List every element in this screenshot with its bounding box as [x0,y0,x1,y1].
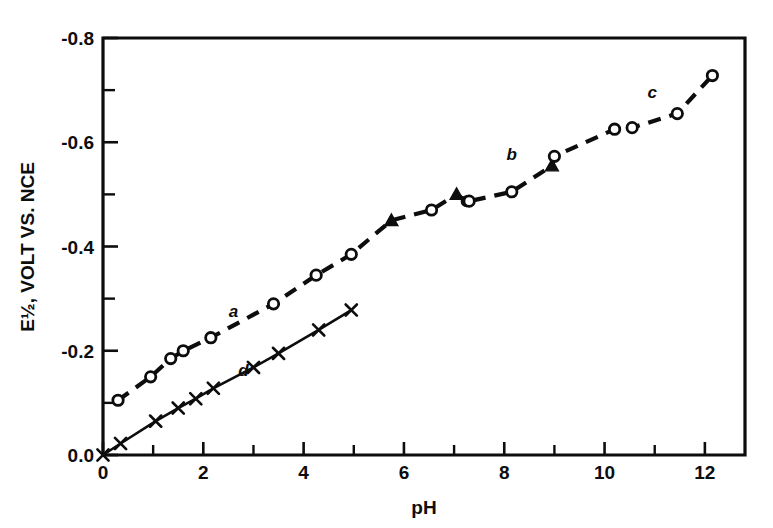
data-point-c [627,122,637,132]
x-axis-tick-labels: 024681012 [98,462,716,483]
x-tick-label: 2 [198,462,209,483]
x-tick-label: 6 [399,462,410,483]
data-point-d [248,362,259,373]
series-inline-labels: abcd [229,83,658,380]
x-tick-label: 4 [298,462,309,483]
y-axis-tick-labels: 0.0-0.2-0.4-0.6-0.8 [61,28,94,466]
x-tick-label: 0 [98,462,109,483]
data-point-a [113,395,123,405]
data-point-a [178,346,188,356]
data-point-b [507,187,517,197]
data-point-d [313,324,324,335]
ph-vs-halfwave-potential-chart: 024681012 0.0-0.2-0.4-0.6-0.8 abcd pH E½… [0,0,773,528]
data-point-b [450,188,463,200]
y-tick-label: -0.6 [61,132,94,153]
x-axis-major-ticks [103,442,705,455]
data-point-b [549,151,559,161]
data-point-a [145,372,155,382]
x-axis-title: pH [411,497,436,518]
y-axis-major-ticks [103,38,118,455]
data-point-c [707,70,717,80]
data-point-d [346,304,357,315]
y-tick-label: -0.4 [61,237,94,258]
data-point-a [206,333,216,343]
trend-line-dashed [118,76,712,401]
y-tick-label: -0.8 [61,28,94,49]
data-point-c [609,124,619,134]
curve-label-d: d [238,361,249,380]
data-point-d [273,348,284,359]
x-tick-label: 8 [499,462,510,483]
curve-label-c: c [647,83,657,102]
y-tick-label: 0.0 [68,445,94,466]
data-point-d [115,438,126,449]
data-point-a [268,299,278,309]
data-point-c [672,108,682,118]
figure-container: 024681012 0.0-0.2-0.4-0.6-0.8 abcd pH E½… [0,0,773,528]
x-tick-label: 12 [694,462,715,483]
data-point-a [346,249,356,259]
y-tick-label: -0.2 [61,341,94,362]
data-point-d [208,383,219,394]
data-point-d [150,416,161,427]
curve-label-a: a [229,302,238,321]
data-point-d [173,402,184,413]
y-axis-title: E½, VOLT VS. NCE [17,162,38,332]
data-point-d [190,393,201,404]
data-point-b [464,196,474,206]
data-point-a [311,270,321,280]
data-point-b [426,205,436,215]
curve-label-b: b [507,145,517,164]
x-tick-label: 10 [594,462,615,483]
data-point-a [166,353,176,363]
